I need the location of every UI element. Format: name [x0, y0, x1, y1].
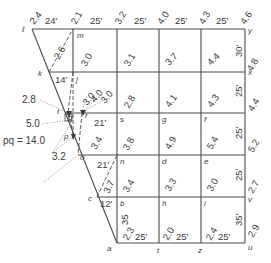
top-row-labels: 2.4 2.1 3.2 4.0 4.3 4.6 24' 25' 25' 25' … — [27, 9, 254, 26]
point-i: i — [204, 199, 206, 208]
point-p: p — [63, 132, 69, 141]
dim-kj: 14' — [55, 74, 68, 85]
elev-m: 2.1 — [68, 9, 84, 26]
dim-ba: 35 — [119, 214, 130, 225]
elev-e: 5.4 — [204, 134, 220, 151]
point-g: g — [162, 115, 167, 124]
dim-on: 21' — [97, 159, 110, 170]
grading-plan-diagram: ℓ m k j t q r p o s g f n d e c b h i a … — [0, 0, 271, 263]
dim-top-3: 25' — [134, 15, 147, 26]
point-h: h — [162, 199, 167, 208]
point-j: j — [75, 75, 78, 84]
point-q: q — [68, 113, 73, 122]
point-a: a — [107, 244, 112, 253]
elev-top-4: 4.0 — [155, 9, 172, 26]
elev-n: 3.8 — [120, 135, 136, 152]
elev-row1-2: 3.1 — [121, 51, 137, 68]
elev-t-point: 2.8 — [22, 94, 36, 105]
elev-i: 3.0 — [204, 176, 220, 193]
point-s: s — [120, 115, 124, 124]
elev-z: 2.4 — [203, 225, 219, 242]
point-r: r — [85, 111, 88, 120]
dim-cb: 12' — [100, 198, 113, 209]
point-m: m — [77, 31, 84, 40]
elev-d: 4.9 — [162, 134, 178, 151]
elev-s: 2.8 — [121, 93, 137, 110]
point-z: z — [197, 246, 202, 255]
dim-right-4: 25' — [233, 168, 244, 181]
elev-top-5: 4.3 — [196, 9, 212, 26]
elev-o-point: 3.2 — [52, 151, 66, 162]
point-o: o — [80, 153, 85, 162]
elev-cn-diag: 3.7 — [101, 178, 117, 195]
point-e: e — [204, 157, 209, 166]
elev-q-point: 5.0 — [26, 118, 40, 129]
elev-j: 3.0 — [78, 51, 94, 68]
point-n: n — [120, 157, 125, 166]
elev-l: 2.4 — [27, 9, 44, 26]
elev-f: 4.3 — [205, 92, 222, 109]
point-k: k — [38, 69, 43, 78]
elev-t: 2.0 — [160, 225, 176, 242]
point-t-bottom: t — [157, 246, 160, 255]
elev-a: 2.3 — [120, 225, 136, 242]
point-l: ℓ — [21, 25, 25, 34]
elev-b: 3.4 — [120, 177, 136, 194]
elev-u: 2.9 — [245, 222, 261, 239]
elev-h: 3.3 — [162, 176, 178, 193]
point-b: b — [120, 199, 125, 208]
point-y: y — [247, 26, 253, 35]
elev-top-3: 3.2 — [112, 9, 128, 26]
dim-top-1: 24' — [45, 15, 58, 26]
dim-top-2: 25' — [90, 15, 103, 26]
elev-y: 4.6 — [238, 9, 255, 26]
dim-right-3: 25' — [233, 126, 244, 139]
bottom-row-labels: 2.3 2.0 2.4 25' 25' 25' — [120, 225, 230, 242]
point-f: f — [204, 115, 207, 124]
elev-g: 4.1 — [163, 92, 180, 109]
pq-label: pq = 14.0 — [3, 135, 45, 146]
dim-bottom-1: 25' — [135, 231, 148, 242]
elev-right-2: 4.4 — [245, 96, 261, 113]
elev-lk-diag: 2.6 — [51, 44, 67, 61]
elev-v: 2.7 — [245, 178, 261, 195]
elev-row1-4: 4.4 — [205, 50, 222, 67]
dim-rs: 21' — [94, 117, 107, 128]
elev-row1-3: 3.7 — [163, 50, 180, 67]
elev-op-diag: 3.4 — [88, 134, 104, 151]
point-d: d — [162, 157, 167, 166]
elev-x: 4.8 — [244, 56, 260, 73]
elev-right-3: 5.2 — [245, 137, 261, 154]
dim-right-1: 30' — [233, 44, 244, 57]
point-v: v — [248, 195, 253, 204]
dim-right-2: 25' — [233, 84, 244, 97]
dim-bottom-2: 25' — [176, 231, 189, 242]
point-c: c — [88, 194, 92, 203]
dim-top-4: 25' — [175, 15, 188, 26]
point-t: t — [57, 107, 60, 116]
dim-bottom-3: 25' — [218, 231, 231, 242]
dim-right-5: 35' — [233, 213, 244, 226]
dim-top-5: 25' — [216, 15, 229, 26]
point-u: u — [248, 243, 253, 252]
